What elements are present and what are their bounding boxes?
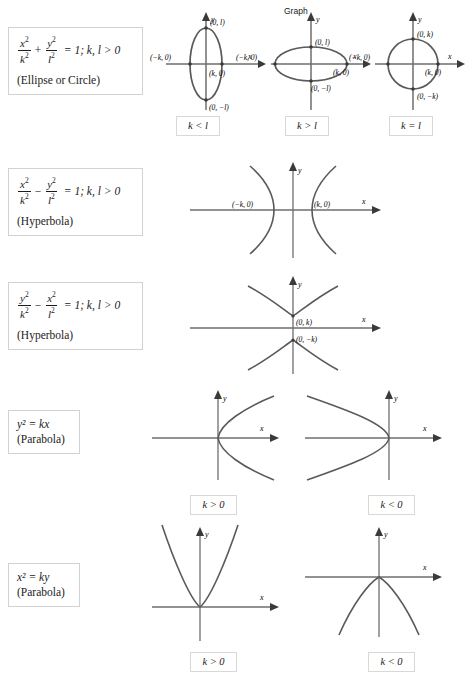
vertex-left (273, 62, 277, 66)
graph-parabola-left: x y (305, 386, 455, 486)
y-axis-arrow (375, 527, 383, 536)
eq2-num1: x2 (18, 177, 31, 191)
graph-circle: x y (0, k) (k, 0) (0, −k) (−k, 0) (373, 8, 468, 118)
y-axis-arrow (196, 527, 204, 536)
eq2-num2: y2 (45, 177, 58, 191)
condition-ellipse-tall: k < l (176, 116, 220, 136)
point-label-top: (0, l) (210, 18, 225, 27)
vertex-left (386, 62, 390, 66)
x-axis-label: x (447, 52, 452, 61)
condition-circle: k = l (389, 116, 433, 136)
point-label-right: (k, 0) (333, 68, 349, 77)
x-axis-arrow (372, 206, 381, 214)
vertex-bottom (411, 87, 415, 91)
equation-ellipse: x2 k2 + y2 l2 = 1; k, l > 0 (17, 36, 134, 64)
y-axis-arrow (214, 390, 222, 399)
eq1-num1: x2 (18, 36, 31, 50)
point-label-lower-vertex: (0, −k) (296, 335, 318, 344)
x-axis-arrow (270, 603, 279, 611)
vertex-upper (291, 314, 294, 317)
point-label-bottom: (0, −k) (417, 92, 439, 101)
x-axis-label: x (259, 424, 264, 433)
vertex-top (411, 37, 415, 41)
y-axis-arrow (385, 390, 393, 399)
vertex-top (204, 26, 208, 30)
y-axis-label: y (315, 15, 320, 24)
equation-hyperbola-vertical-name: (Hyperbola) (17, 329, 134, 341)
vertex-right (220, 62, 224, 66)
y-axis-arrow (289, 162, 297, 171)
eq3-rhs: = 1; k, l > 0 (64, 300, 120, 312)
graph-parabola-down: x y (305, 525, 455, 645)
y-axis-label: y (222, 394, 227, 403)
eq3-den1: k2 (18, 305, 31, 320)
equation-parabola-horizontal: y² = kx (17, 419, 71, 431)
point-label-bottom: (0, −l) (209, 103, 229, 112)
vertex-bottom (309, 79, 313, 83)
eq1-den2: l2 (46, 50, 57, 65)
graph-hyperbola-east-west: x y (−k, 0) (k, 0) (190, 158, 400, 263)
equation-hyperbola-horizontal-name: (Hyperbola) (17, 215, 134, 227)
equation-box-parabola-vertical: x² = ky (Parabola) (8, 563, 80, 607)
eq3-num2: x2 (45, 291, 58, 305)
condition-parabola-left: k < 0 (368, 495, 415, 515)
x-axis-arrow (270, 434, 279, 442)
y-axis-label: y (417, 15, 422, 24)
y-axis-label: y (204, 530, 209, 539)
equation-box-hyperbola-horizontal: x2 k2 − y2 l2 = 1; k, l > 0 (Hyperbola) (8, 168, 143, 236)
graph-parabola-up: x y (152, 525, 292, 645)
eq1-operator: + (35, 45, 42, 57)
equation-hyperbola-vertical: y2 k2 − x2 l2 = 1; k, l > 0 (17, 291, 134, 319)
x-axis-label: x (422, 424, 427, 433)
eq2-den1: k2 (18, 191, 31, 206)
point-label-right: (k, 0) (209, 69, 225, 78)
x-axis-arrow (457, 60, 465, 68)
eq1-num2: y2 (45, 36, 58, 50)
eq1-rhs: = 1; k, l > 0 (64, 45, 120, 57)
equation-box-hyperbola-vertical: y2 k2 − x2 l2 = 1; k, l > 0 (Hyperbola) (8, 282, 143, 350)
eq3-den2: l2 (46, 305, 57, 320)
x-axis-arrow (372, 324, 381, 332)
equation-box-parabola-horizontal: y² = kx (Parabola) (8, 410, 80, 454)
condition-ellipse-wide: k > l (285, 116, 329, 136)
condition-parabola-down: k < 0 (368, 652, 415, 672)
point-label-left: (−k, 0) (150, 53, 172, 62)
equation-parabola-horizontal-name: (Parabola) (17, 433, 71, 445)
point-label-left-vertex: (−k, 0) (232, 200, 254, 209)
eq3-num1: y2 (18, 291, 31, 305)
condition-parabola-up: k > 0 (190, 652, 237, 672)
y-axis-label: y (297, 166, 302, 175)
equation-hyperbola-horizontal: x2 k2 − y2 l2 = 1; k, l > 0 (17, 177, 134, 205)
point-label-left: (−k, 0) (236, 53, 258, 62)
vertex-top (309, 45, 313, 49)
point-label-top: (0, l) (315, 38, 330, 47)
y-axis-label: y (383, 530, 388, 539)
y-axis-label: y (393, 394, 398, 403)
x-axis-arrow (433, 434, 442, 442)
point-label-bottom: (0, −l) (311, 84, 331, 93)
eq1-den1: k2 (18, 50, 31, 65)
eq4-expression: y² = kx (17, 419, 49, 431)
y-axis-arrow (409, 12, 417, 21)
y-axis-arrow (289, 276, 297, 285)
equation-ellipse-name: (Ellipse or Circle) (17, 74, 134, 86)
graph-ellipse-wide: x y (0, l) (k, 0) (0, −l) (−k, 0) (267, 8, 371, 118)
equation-parabola-vertical-name: (Parabola) (17, 586, 71, 598)
x-axis-label: x (361, 197, 366, 206)
equation-parabola-vertical: x² = ky (17, 572, 71, 584)
graph-hyperbola-north-south: x y (0, k) (0, −k) (190, 272, 400, 377)
eq2-operator: − (35, 186, 42, 198)
point-label-right-vertex: (k, 0) (314, 200, 330, 209)
vertex-right (436, 62, 440, 66)
y-axis-arrow (307, 12, 315, 21)
conic-sections-reference-sheet: Graph x2 k2 + y2 l2 = 1; k, l > 0 (Ellip… (0, 0, 468, 687)
vertex-right (345, 62, 349, 66)
point-label-left: (−k, 0) (349, 53, 371, 62)
x-axis-label: x (422, 563, 427, 572)
eq2-den2: l2 (46, 191, 57, 206)
y-axis-label: y (297, 280, 302, 289)
equation-box-ellipse: x2 k2 + y2 l2 = 1; k, l > 0 (Ellipse or … (8, 27, 143, 95)
eq2-rhs: = 1; k, l > 0 (64, 186, 120, 198)
point-label-top: (0, k) (417, 30, 433, 39)
eq5-expression: x² = ky (17, 572, 49, 584)
